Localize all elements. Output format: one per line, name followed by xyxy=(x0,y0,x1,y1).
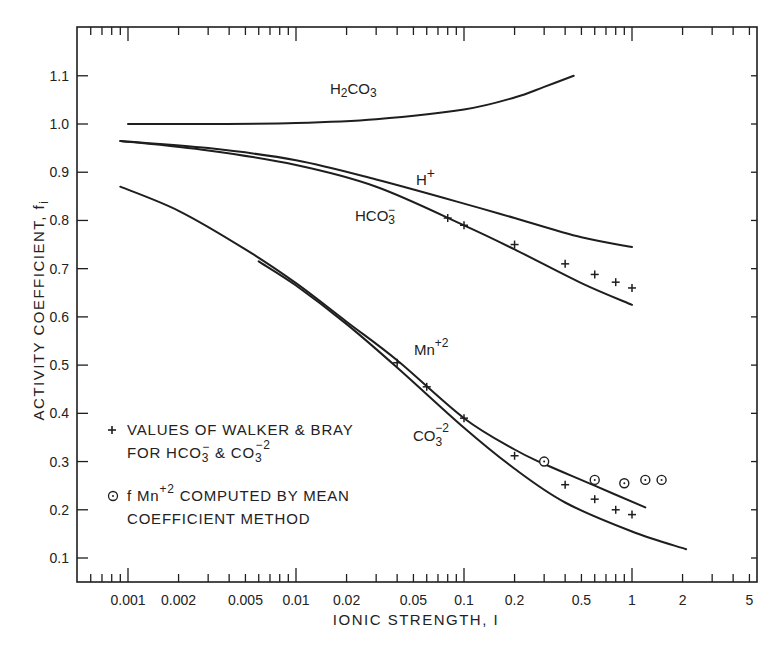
y-tick-label: 0.1 xyxy=(50,550,70,566)
x-tick-label: 0.2 xyxy=(505,592,525,608)
x-tick-label: 0.002 xyxy=(161,592,196,608)
circle-dot-marker-icon xyxy=(657,475,666,484)
circle-dot-marker-icon xyxy=(540,457,549,466)
circle-dot-marker-icon xyxy=(620,479,629,488)
label-hco3: HCO3− xyxy=(355,203,395,227)
x-tick-label: 0.1 xyxy=(454,592,474,608)
y-tick-label: 1.1 xyxy=(50,68,70,84)
x-tick-label: 0.05 xyxy=(400,592,427,608)
x-axis-title: IONIC STRENGTH, I xyxy=(333,611,499,628)
y-axis-title-subscript: i xyxy=(37,200,51,204)
x-tick-label: 0.001 xyxy=(110,592,145,608)
legend-entry-walker-bray-line1: VALUES OF WALKER & BRAY xyxy=(127,421,354,438)
circle-dot-marker-icon xyxy=(641,475,650,484)
y-tick-label: 0.2 xyxy=(50,502,70,518)
y-tick-label: 0.3 xyxy=(50,454,70,470)
activity-coefficient-chart: 0.0010.0020.0050.010.020.050.10.20.5125 … xyxy=(0,0,778,645)
y-tick-label: 0.8 xyxy=(50,212,70,228)
background xyxy=(0,0,778,645)
x-tick-label: 2 xyxy=(679,592,687,608)
y-tick-label: 0.6 xyxy=(50,309,70,325)
y-tick-label: 1.0 xyxy=(50,116,70,132)
y-tick-label: 0.7 xyxy=(50,261,70,277)
y-tick-label: 0.4 xyxy=(50,405,70,421)
x-tick-label: 0.02 xyxy=(333,592,360,608)
x-tick-label: 5 xyxy=(746,592,754,608)
x-tick-label: 0.5 xyxy=(572,592,592,608)
circle-dot-marker-icon xyxy=(590,475,599,484)
legend-entry-mean-coefficient-line2: COEFFICIENT METHOD xyxy=(127,510,310,527)
y-tick-label: 0.9 xyxy=(50,164,70,180)
y-axis-title-text: ACTIVITY COEFFICIENT, f xyxy=(30,204,47,421)
x-tick-label: 1 xyxy=(628,592,636,608)
y-tick-label: 0.5 xyxy=(50,357,70,373)
x-tick-label: 0.005 xyxy=(228,592,263,608)
x-tick-label: 0.01 xyxy=(282,592,309,608)
